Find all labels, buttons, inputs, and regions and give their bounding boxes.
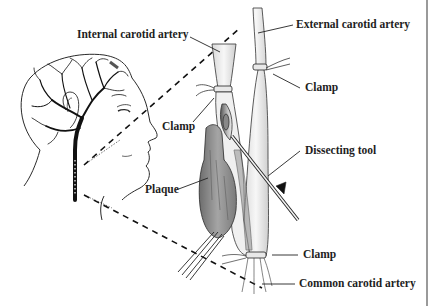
- label-clamp-common: Clamp: [303, 249, 336, 261]
- label-plaque: Plaque: [145, 184, 179, 196]
- label-internal-carotid-artery: Internal carotid artery: [77, 29, 189, 41]
- label-common-carotid-artery: Common carotid artery: [299, 278, 416, 290]
- label-external-carotid-artery: External carotid artery: [296, 19, 410, 31]
- label-dissecting-tool: Dissecting tool: [305, 145, 376, 157]
- forceps: [178, 232, 224, 280]
- frame-border: [426, 0, 428, 306]
- cerebral-artery-tree: [32, 58, 128, 200]
- common-carotid-vessel: [222, 252, 272, 294]
- carotid-endarterectomy-diagram: Internal carotid artery External carotid…: [0, 0, 434, 306]
- head-profile: [21, 54, 157, 220]
- label-clamp-external: Clamp: [305, 82, 338, 94]
- label-clamp-internal: Clamp: [162, 121, 195, 133]
- external-carotid-vessel: [243, 8, 290, 256]
